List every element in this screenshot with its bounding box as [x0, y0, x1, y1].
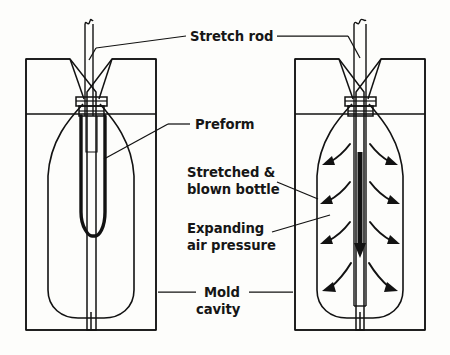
leader-preform-line	[104, 124, 168, 159]
air-arrow-left-1-head	[322, 156, 335, 165]
air-arrow-left-3	[320, 222, 350, 244]
left-mold-cavity-outline	[48, 104, 134, 318]
label-mold-cavity-line2: cavity	[196, 302, 241, 317]
label-stretched-bottle-line2: blown bottle	[187, 182, 280, 197]
right-mold-neck-funnel	[339, 59, 381, 99]
air-arrow-right-3-head	[387, 235, 400, 244]
leader-expanding-air	[272, 215, 330, 232]
air-arrow-left-3-head	[320, 235, 333, 244]
label-mold-cavity-group: Mold cavity	[158, 285, 293, 317]
label-mold-cavity-line1: Mold	[204, 285, 240, 300]
right-funnel-left	[339, 59, 353, 99]
air-arrow-left-2	[320, 182, 350, 204]
left-funnel-left	[70, 59, 84, 99]
air-arrow-left-4	[322, 263, 351, 292]
left-rod-break-symbol	[85, 19, 93, 24]
label-stretch-rod: Stretch rod	[190, 29, 273, 44]
label-stretched-bottle-group: Stretched & blown bottle	[187, 165, 318, 199]
label-stretch-rod-group: Stretch rod	[89, 29, 360, 60]
air-arrow-right-1-head	[385, 156, 398, 165]
air-arrow-left-3-curve	[328, 222, 350, 241]
label-expanding-air-line1: Expanding	[187, 221, 264, 236]
left-preform	[81, 116, 105, 236]
label-preform-group: Preform	[104, 117, 254, 159]
air-arrow-right-1	[370, 144, 398, 165]
left-mold-half-right	[87, 59, 156, 330]
stretch-blow-molding-diagram: Stretch rod Preform Stretched & blown bo…	[0, 0, 450, 355]
leader-stretch-rod-left	[96, 36, 186, 48]
right-panel	[295, 19, 425, 330]
left-funnel-right	[99, 59, 112, 99]
right-funnel-right	[368, 59, 381, 99]
label-expanding-air-line2: air pressure	[187, 238, 276, 253]
label-stretched-bottle-line1: Stretched &	[187, 165, 275, 180]
air-arrow-right-2-curve	[370, 182, 392, 201]
air-arrow-left-1	[322, 144, 350, 165]
left-neck-finish	[76, 97, 107, 116]
air-arrow-right-3-curve	[370, 222, 392, 241]
air-arrow-right-4	[369, 263, 398, 292]
air-arrow-right-3	[370, 222, 400, 244]
left-mold-block	[26, 59, 156, 330]
left-mold-neck-funnel	[70, 59, 112, 99]
right-neck-finish	[345, 97, 376, 116]
label-preform: Preform	[195, 117, 254, 132]
air-arrow-right-2	[370, 182, 400, 204]
leader-stretched-bottle	[277, 182, 318, 199]
right-rod-break-symbol	[354, 19, 366, 24]
air-arrow-left-2-head	[320, 195, 333, 204]
left-preform-outer-wall	[81, 116, 105, 236]
air-arrow-right-2-head	[387, 195, 400, 204]
air-arrow-left-2-curve	[328, 182, 350, 201]
left-panel	[26, 19, 156, 330]
label-expanding-air-group: Expanding air pressure	[187, 215, 330, 253]
